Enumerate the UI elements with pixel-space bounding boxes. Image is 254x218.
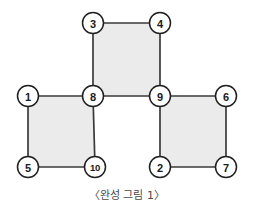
node-1[interactable]: 1 [18,86,39,107]
node-circle-8[interactable] [83,86,104,107]
node-6[interactable]: 6 [216,86,237,107]
node-circle-6[interactable] [216,86,237,107]
node-5[interactable]: 5 [18,157,39,178]
node-8[interactable]: 8 [83,86,104,107]
figure-caption: 〈완성 그림 1〉 [0,186,254,202]
node-circle-2[interactable] [150,157,171,178]
node-3[interactable]: 3 [83,13,104,34]
bottom-right-square [160,96,226,167]
top-center-square [93,23,160,96]
bottom-left-square [28,96,95,167]
node-circle-10[interactable] [85,157,106,178]
node-circle-3[interactable] [83,13,104,34]
node-circle-4[interactable] [150,13,171,34]
node-circle-5[interactable] [18,157,39,178]
figure-container: 12345678910 〈완성 그림 1〉 [0,0,254,218]
node-2[interactable]: 2 [150,157,171,178]
node-circle-7[interactable] [216,157,237,178]
node-circle-9[interactable] [150,86,171,107]
node-7[interactable]: 7 [216,157,237,178]
node-10[interactable]: 10 [85,157,106,178]
square-faces-layer [28,23,226,167]
node-9[interactable]: 9 [150,86,171,107]
node-circle-1[interactable] [18,86,39,107]
node-4[interactable]: 4 [150,13,171,34]
